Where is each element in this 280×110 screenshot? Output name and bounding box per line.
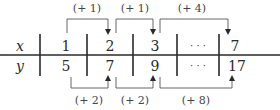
y-value: 9	[140, 58, 170, 74]
y-ellipsis: · · ·	[183, 58, 213, 74]
bottom-change-2: (+ 2)	[115, 95, 155, 107]
y-value: 5	[51, 58, 81, 74]
y-value: 17	[222, 58, 252, 74]
top-change-1: (+ 1)	[67, 3, 107, 15]
x-value: 1	[51, 38, 81, 54]
x-value: 3	[140, 38, 170, 54]
x-value: 7	[220, 38, 250, 54]
x-value: 2	[95, 38, 125, 54]
bottom-change-3: (+ 8)	[176, 95, 216, 107]
top-change-2: (+ 1)	[115, 3, 155, 15]
top-arrows	[67, 19, 228, 33]
y-label: y	[5, 58, 35, 74]
bottom-change-1: (+ 2)	[69, 95, 109, 107]
y-value: 7	[95, 58, 125, 74]
top-change-3: (+ 4)	[172, 3, 212, 15]
x-label: x	[5, 38, 35, 54]
x-ellipsis: · · ·	[183, 38, 213, 54]
